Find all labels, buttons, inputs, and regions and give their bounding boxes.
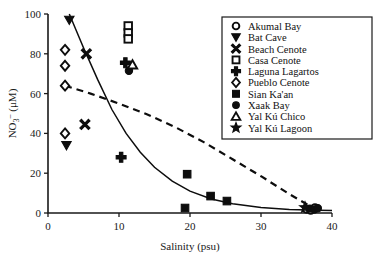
series-pueblo-cenote [61, 45, 69, 138]
y-tick-label: 80 [30, 48, 42, 60]
x-tick-label: 30 [256, 220, 268, 232]
data-point [207, 192, 215, 200]
x-axis-title: Salinity (psu) [160, 240, 220, 253]
y-tick-label: 20 [30, 167, 42, 179]
y-tick-label: 100 [25, 8, 42, 20]
data-point [61, 61, 69, 71]
legend-label: Akumal Bay [248, 21, 302, 32]
data-point [124, 35, 132, 43]
legend-label: Laguna Lagartos [248, 66, 319, 77]
legend-label: Beach Cenote [248, 44, 307, 55]
data-point [62, 142, 71, 150]
chart-figure: 020406080100010203040 Salinity (psu) NO3… [0, 0, 374, 270]
x-tick-label: 10 [114, 220, 126, 232]
legend-marker-square-open-icon [233, 56, 240, 63]
legend-marker-square-filled-icon [233, 90, 240, 97]
data-point [181, 204, 189, 212]
scatter-plot: 020406080100010203040 Salinity (psu) NO3… [0, 0, 374, 270]
data-point [116, 152, 126, 162]
data-point [314, 205, 321, 212]
legend-label: Xaak Bay [248, 100, 290, 111]
x-tick-label: 0 [45, 220, 51, 232]
y-axis-title: NO3– (μM) [5, 88, 21, 138]
series-casa-cenote [124, 22, 132, 42]
legend-label: Pueblo Cenote [248, 77, 310, 88]
data-point [223, 197, 231, 205]
legend-label: Bat Cave [248, 32, 287, 43]
x-tick-label: 40 [327, 220, 339, 232]
y-tick-label: 0 [36, 207, 42, 219]
legend-marker-circle-filled-icon [233, 102, 240, 109]
data-point [81, 49, 91, 59]
data-point [61, 45, 69, 55]
legend-label: Yal Kú Chico [248, 111, 305, 122]
legend-marker-circle-open-icon [233, 23, 240, 30]
svg-text:NO3– (μM): NO3– (μM) [5, 88, 21, 138]
y-tick-label: 40 [30, 127, 42, 139]
data-point [61, 128, 69, 138]
data-point [183, 170, 191, 178]
legend-label: Sian Ka'an [248, 89, 294, 100]
legend-label: Yal Kú Lagoon [248, 123, 313, 134]
x-tick-label: 20 [185, 220, 197, 232]
legend-label: Casa Cenote [248, 55, 301, 66]
y-tick-label: 60 [30, 88, 42, 100]
legend: Akumal BayBat CaveBeach CenoteCasa Cenot… [222, 17, 372, 139]
data-point [61, 81, 69, 91]
data-point [80, 119, 90, 129]
